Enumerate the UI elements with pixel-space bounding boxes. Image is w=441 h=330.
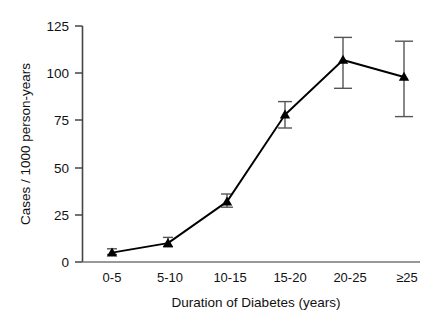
y-tick-label-75: 75 bbox=[54, 113, 69, 128]
x-tick-label-4: 20-25 bbox=[333, 270, 366, 285]
chart-figure: 125 100 75 50 25 0 Cases / 1000 person-y… bbox=[0, 0, 441, 330]
y-tick-label-25: 25 bbox=[54, 208, 69, 223]
y-tick-label-50: 50 bbox=[54, 161, 69, 176]
y-axis-title: Cases / 1000 person-years bbox=[18, 63, 33, 225]
x-tick-label-1: 5-10 bbox=[157, 270, 183, 285]
x-tick-label-2: 10-15 bbox=[213, 270, 246, 285]
x-axis-title: Duration of Diabetes (years) bbox=[172, 295, 341, 310]
x-tick-label-0: 0-5 bbox=[103, 270, 122, 285]
y-tick-label-125: 125 bbox=[46, 19, 69, 34]
y-tick-label-100: 100 bbox=[46, 66, 69, 81]
x-tick-label-5: ≥25 bbox=[396, 270, 418, 285]
y-tick-label-0: 0 bbox=[61, 255, 69, 270]
x-tick-label-3: 15-20 bbox=[273, 270, 306, 285]
line-chart-canvas: 125 100 75 50 25 0 Cases / 1000 person-y… bbox=[0, 0, 441, 330]
